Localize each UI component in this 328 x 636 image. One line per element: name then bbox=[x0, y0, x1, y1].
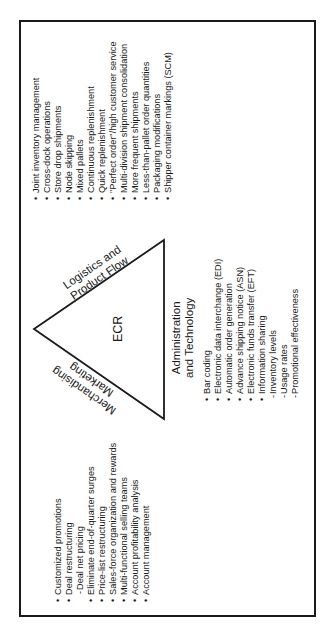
list-item: •Mixed pallets bbox=[75, 41, 86, 200]
list-item: •Multi-functional selling teams bbox=[119, 443, 130, 602]
list-item: •Electronic data interchange (EDI) bbox=[213, 259, 224, 401]
admin-label: Administrationand Technology bbox=[170, 298, 195, 378]
list-item: •Shipper container markings (SCM) bbox=[163, 41, 174, 200]
ecr-label: ECR bbox=[111, 316, 125, 342]
list-item: •Account profitability analysis bbox=[130, 443, 141, 602]
list-item: •Quick replenishment bbox=[97, 41, 108, 200]
list-item: •Less-than-pallet order quantities bbox=[141, 41, 152, 200]
list-item: •Price-list restructuring bbox=[97, 443, 108, 602]
list-item: -Inventory levels bbox=[268, 259, 279, 401]
list-item: •Advance shipping notice (ASN) bbox=[235, 259, 246, 401]
list-item: •Electronic funds transfer (EFT) bbox=[246, 259, 257, 401]
list-item: •Packaging modifications bbox=[152, 41, 163, 200]
list-item: -Promotional effectiveness bbox=[290, 259, 301, 401]
list-item: •Bar coding bbox=[202, 259, 213, 401]
list-item: •Information sharing bbox=[257, 259, 268, 401]
list-item: -Usage rates bbox=[279, 259, 290, 401]
list-item: •"Perfect order"/high customer service bbox=[108, 41, 119, 200]
list-item: •Joint inventory management bbox=[31, 41, 42, 200]
list-item: •Automatic order generation bbox=[224, 259, 235, 401]
list-item: •Continuous replenishment bbox=[86, 41, 97, 200]
list-item: •Deal restructuring bbox=[64, 443, 75, 602]
logistics-list: •Joint inventory management •Cross-dock … bbox=[31, 41, 174, 200]
list-item: •Node skipping bbox=[64, 41, 75, 200]
list-item: •Sales-force organization and rewards bbox=[108, 443, 119, 602]
list-item: •More frequent shipments bbox=[130, 41, 141, 200]
list-item: •Account management bbox=[141, 443, 152, 602]
admin-list: •Bar coding •Electronic data interchange… bbox=[202, 259, 301, 401]
list-item: -Deal net pricing bbox=[75, 443, 86, 602]
list-item: •Store drop shipments bbox=[53, 41, 64, 200]
list-item: •Customized promotions bbox=[53, 443, 64, 602]
list-item: •Multi-division shipment consolidation bbox=[119, 41, 130, 200]
list-item: •Cross-dock operations bbox=[42, 41, 53, 200]
merchandising-list: •Customized promotions •Deal restructuri… bbox=[53, 443, 152, 602]
list-item: •Eliminate end-of-quarter surges bbox=[86, 443, 97, 602]
